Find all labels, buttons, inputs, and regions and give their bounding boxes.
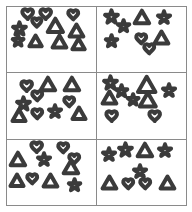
heart-icon — [122, 179, 134, 189]
heart-icon — [67, 10, 79, 20]
shape-panel-bottom-right[interactable] — [96, 139, 187, 207]
heart-icon — [139, 179, 151, 189]
star-icon — [117, 143, 134, 156]
triangle-icon — [11, 109, 27, 122]
star-icon — [101, 148, 117, 161]
shape-panel-middle-right[interactable] — [96, 72, 187, 140]
triangle-icon — [63, 77, 81, 91]
triangle-icon — [153, 31, 170, 44]
heart-icon — [143, 44, 155, 54]
shape-panel-bottom-left[interactable] — [6, 139, 97, 207]
triangle-icon — [71, 107, 87, 120]
heart-icon — [63, 97, 75, 107]
star-icon — [116, 20, 131, 32]
triangle-icon — [28, 35, 43, 47]
heart-icon — [31, 109, 43, 119]
heart-icon — [30, 142, 43, 152]
star-icon — [161, 84, 177, 97]
triangle-icon — [9, 152, 27, 166]
star-icon — [104, 35, 119, 47]
heart-icon — [148, 111, 161, 121]
triangle-icon — [46, 18, 65, 33]
triangle-icon — [101, 176, 118, 189]
star-icon — [67, 179, 82, 191]
star-icon — [157, 144, 173, 157]
shape-panel-grid — [6, 6, 186, 206]
star-icon — [47, 105, 63, 118]
star-icon — [15, 97, 32, 110]
shape-panel-top-left[interactable] — [6, 6, 97, 74]
triangle-icon — [159, 176, 176, 189]
triangle-icon — [68, 24, 85, 37]
shape-panel-top-right[interactable] — [96, 6, 187, 74]
heart-icon — [26, 174, 38, 184]
triangle-icon — [9, 174, 25, 187]
triangle-icon — [136, 143, 154, 157]
heart-icon — [57, 143, 69, 153]
triangle-icon — [138, 92, 158, 107]
star-icon — [156, 11, 172, 24]
star-icon — [36, 153, 52, 166]
heart-icon — [135, 34, 147, 44]
triangle-icon — [133, 10, 151, 24]
star-icon — [11, 35, 25, 46]
star-icon — [132, 165, 148, 178]
heart-icon — [105, 111, 118, 121]
triangle-icon — [42, 174, 59, 187]
triangle-icon — [62, 160, 80, 174]
triangle-icon — [71, 38, 86, 50]
triangle-icon — [39, 77, 57, 91]
shape-panel-middle-left[interactable] — [6, 72, 97, 140]
heart-icon — [31, 18, 43, 27]
triangle-icon — [101, 91, 118, 104]
triangle-icon — [51, 35, 68, 48]
